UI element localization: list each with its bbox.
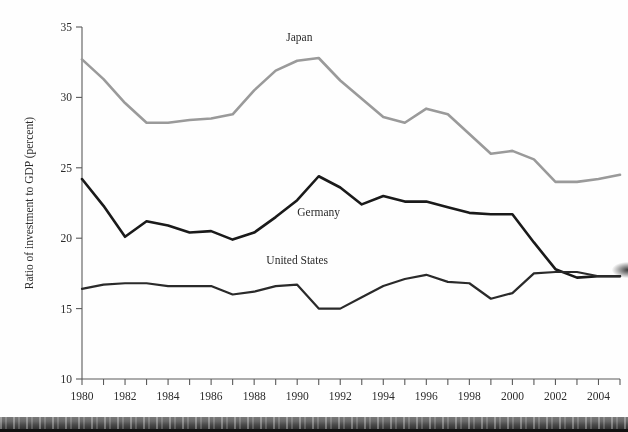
y-tick-label: 25 [61,162,73,174]
x-tick-label: 2004 [587,390,610,402]
x-tick-label: 1980 [71,390,94,402]
line-chart-figure: 101520253035 198019821984198619881990199… [0,0,628,432]
series-line-united-states [82,272,620,309]
series-annotation: United States [266,254,328,266]
x-tick-label: 1994 [372,390,395,402]
chart-svg: 101520253035 198019821984198619881990199… [0,0,628,432]
series-annotation: Germany [297,206,340,219]
scanner-artifact-speckle [0,417,628,429]
chart-page: 101520253035 198019821984198619881990199… [0,0,628,432]
x-axis: 1980198219841986198819901992199419961998… [71,379,621,402]
x-tick-label: 1996 [415,390,438,402]
y-tick-label: 35 [61,21,73,33]
scan-corner-smudge [612,262,628,278]
x-tick-label: 1992 [329,390,352,402]
x-tick-label: 2000 [501,390,524,402]
series-annotations: JapanGermanyUnited States [266,31,340,265]
x-tick-label: 1998 [458,390,481,402]
x-tick-label: 1982 [114,390,137,402]
series-line-japan [82,58,620,182]
data-series-group [82,58,620,309]
y-tick-label: 30 [61,91,73,103]
x-tick-label: 1990 [286,390,309,402]
x-tick-label: 2002 [544,390,567,402]
y-tick-label: 10 [61,373,73,385]
y-tick-label: 20 [61,232,73,244]
x-tick-label: 1984 [157,390,180,402]
x-tick-label: 1988 [243,390,266,402]
y-axis-label: Ratio of investment to GDP (percent) [23,117,36,290]
series-line-germany [82,176,620,277]
y-axis-title: Ratio of investment to GDP (percent) [23,117,36,290]
series-annotation: Japan [286,31,312,44]
x-tick-label: 1986 [200,390,223,402]
y-tick-label: 15 [61,303,73,315]
y-axis: 101520253035 [61,21,83,385]
